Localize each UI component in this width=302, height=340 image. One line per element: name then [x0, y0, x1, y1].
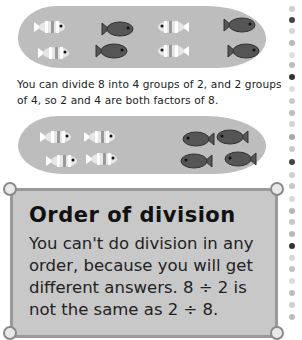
- striped-fish-icon: [38, 128, 74, 150]
- dot-icon: [289, 146, 295, 152]
- dot-icon: [289, 110, 295, 116]
- striped-fish-icon: [36, 44, 72, 66]
- striped-fish-icon: [155, 18, 191, 40]
- dot-icon: [289, 266, 295, 272]
- dark-fish-icon: [222, 16, 258, 38]
- dot-icon: [289, 302, 295, 308]
- dot-icon: [289, 290, 295, 296]
- dot-icon: [289, 62, 295, 68]
- dark-fish-icon: [214, 128, 250, 150]
- dark-fish-icon: [100, 20, 136, 42]
- dot-icon: [289, 243, 295, 249]
- dot-icon: [289, 314, 295, 320]
- dot-icon: [289, 17, 295, 23]
- dot-icon: [289, 219, 295, 225]
- dot-icon: [289, 231, 295, 237]
- dot-icon: [289, 121, 295, 127]
- striped-fish-icon: [155, 42, 191, 64]
- dot-icon: [289, 98, 295, 104]
- dark-fish-icon: [180, 130, 216, 152]
- dot-icon: [289, 208, 295, 214]
- dot-icon: [289, 74, 295, 80]
- dot-icon: [289, 40, 295, 46]
- dot-icon: [289, 28, 295, 34]
- dot-icon: [289, 86, 295, 92]
- dark-fish-icon: [222, 150, 258, 172]
- dot-icon: [289, 278, 295, 284]
- dot-icon: [289, 172, 295, 178]
- panel-body: You can't do division in any order, beca…: [29, 233, 269, 321]
- scroll-curl-icon: [270, 182, 284, 196]
- dot-icon: [289, 183, 295, 189]
- info-panel: Order of division You can't do division …: [10, 188, 278, 338]
- scroll-curl-icon: [3, 182, 17, 196]
- dot-icon: [289, 6, 295, 12]
- striped-fish-icon: [84, 150, 120, 172]
- dot-icon: [289, 196, 295, 202]
- striped-fish-icon: [44, 152, 80, 174]
- caption-text: You can divide 8 into 4 groups of 2, and…: [17, 76, 289, 108]
- striped-fish-icon: [82, 128, 118, 150]
- scroll-curl-icon: [3, 326, 17, 340]
- dark-fish-icon: [178, 152, 214, 174]
- panel-title: Order of division: [29, 203, 236, 227]
- dot-icon: [289, 52, 295, 58]
- dark-fish-icon: [94, 42, 130, 64]
- dot-icon: [289, 159, 295, 165]
- scroll-curl-icon: [270, 326, 284, 340]
- decorative-dot-column: [286, 0, 300, 338]
- dot-icon: [289, 255, 295, 261]
- dot-icon: [289, 134, 295, 140]
- striped-fish-icon: [32, 18, 68, 40]
- dark-fish-icon: [226, 42, 262, 64]
